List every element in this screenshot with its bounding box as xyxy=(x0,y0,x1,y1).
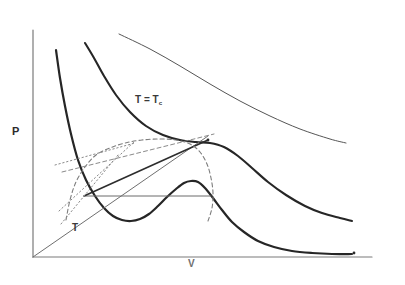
axes-group xyxy=(33,30,372,257)
supercritical-isotherm xyxy=(119,34,346,143)
end-tick-lower-isotherm xyxy=(353,252,356,255)
volume-axis-label: V xyxy=(188,258,195,269)
subcritical-isotherm-label: T xyxy=(72,222,78,233)
tangent-dotted-steep xyxy=(59,142,134,211)
isotherm-series-group xyxy=(33,34,352,257)
tangent-dotted-upper xyxy=(55,143,135,165)
tangent-dashed xyxy=(62,134,214,172)
critical-isotherm xyxy=(85,43,352,221)
chord-line xyxy=(84,140,208,196)
marker-group xyxy=(207,139,356,255)
pv-diagram-figure xyxy=(0,0,405,285)
critical-isotherm-label: T = Tc xyxy=(135,94,162,106)
pressure-axis-label: P xyxy=(12,125,19,137)
critical-point xyxy=(207,139,210,142)
